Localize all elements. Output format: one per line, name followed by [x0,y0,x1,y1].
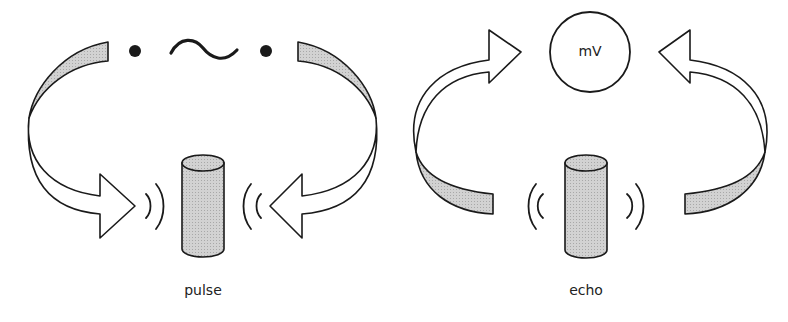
transducer-cylinder-echo-icon [565,155,607,258]
wave-lines-left-echo-icon [529,184,544,229]
curved-arrow-right-icon [270,42,377,238]
dot-icon [260,45,272,57]
echo-label: echo [536,282,636,298]
pulse-panel [28,40,376,257]
wave-lines-left-icon [146,184,164,229]
curved-arrow-right-echo-icon [659,30,767,214]
sine-wave-icon [171,40,237,58]
dot-icon [129,45,141,57]
wave-lines-right-echo-icon [627,184,644,229]
pulse-label: pulse [153,282,253,298]
diagram-canvas [0,0,788,322]
transducer-cylinder-icon [182,155,224,257]
signal-source-icon [129,40,272,58]
curved-arrow-left-icon [28,42,135,238]
meter-unit-label: mV [555,43,625,59]
curved-arrow-left-echo-icon [414,30,521,214]
wave-lines-right-icon [244,184,262,229]
